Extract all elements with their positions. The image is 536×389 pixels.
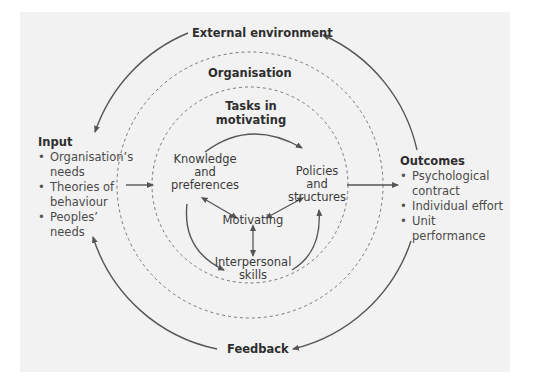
arc-external-to-input	[95, 33, 188, 132]
interpersonal-skills-node: Interpersonal skills	[208, 256, 298, 282]
outcomes-block: Outcomes Psychologicalcontract Individua…	[400, 154, 510, 244]
arc-feedback-to-input	[93, 237, 217, 349]
feedback-label: Feedback	[227, 342, 289, 356]
arc-outcomes-to-external	[323, 35, 417, 150]
arc-knowledge-to-policies	[205, 134, 302, 152]
tasks-in-motivating-label: Tasks in motivating	[206, 99, 296, 127]
outcome-item: Unit performance	[400, 214, 510, 244]
input-item: Peoples’needs	[38, 210, 133, 240]
knowledge-preferences-node: Knowledge and preferences	[160, 153, 250, 192]
input-item: Organisation’sneeds	[38, 150, 133, 180]
input-title: Input	[38, 135, 133, 150]
input-item: Theories ofbehaviour	[38, 180, 133, 210]
organisation-label: Organisation	[208, 66, 292, 80]
motivating-node: Motivating	[213, 213, 293, 227]
policies-structures-node: Policies and structures	[282, 165, 352, 204]
outcome-item: Individual effort	[400, 199, 510, 214]
outcomes-title: Outcomes	[400, 154, 510, 169]
external-environment-label: External environment	[192, 26, 333, 40]
outcome-item: Psychologicalcontract	[400, 169, 510, 199]
arc-outcomes-to-feedback	[293, 241, 411, 349]
input-block: Input Organisation’sneeds Theories ofbeh…	[38, 135, 133, 240]
